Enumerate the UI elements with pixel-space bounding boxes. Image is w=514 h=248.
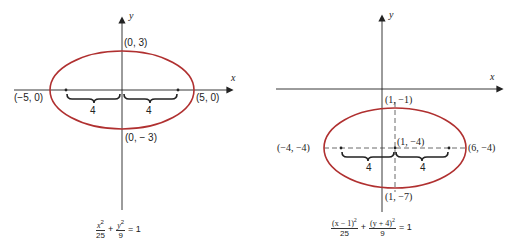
brace-label-left: 4: [90, 105, 96, 116]
left-figure: [14, 20, 230, 210]
brace-right: [124, 94, 177, 103]
point-left: (−4, −4): [277, 142, 310, 153]
equation-left: x2 25 + y2 9 = 1: [96, 218, 141, 240]
point-center: (1, −4): [397, 136, 424, 147]
point-top: (1, −1): [385, 94, 412, 105]
focus-right: [177, 89, 180, 92]
focus-right: [448, 147, 451, 150]
point-left: (−5, 0): [14, 92, 43, 103]
y-axis-label: y: [129, 10, 133, 21]
brace-left: [67, 94, 120, 103]
brace-right: [396, 152, 448, 161]
point-right: (6, −4): [468, 142, 495, 153]
focus-left: [340, 147, 343, 150]
point-top: (0, 3): [124, 37, 147, 48]
point-right: (5, 0): [196, 92, 219, 103]
brace-label-left: 4: [366, 162, 372, 173]
x-axis-label: x: [490, 71, 494, 82]
point-bottom: (1, −7): [385, 191, 412, 202]
right-figure: [276, 18, 500, 212]
point-bottom: (0, − 3): [125, 132, 157, 143]
brace-label-right: 4: [420, 162, 426, 173]
brace-label-right: 4: [146, 105, 152, 116]
diagram-canvas: [0, 0, 514, 248]
y-axis-label: y: [389, 9, 393, 20]
center: [394, 147, 397, 150]
brace-left: [342, 152, 394, 161]
equation-right: (x − 1)2 25 + (y + 4)2 9 = 1: [331, 216, 412, 238]
focus-left: [65, 89, 68, 92]
x-axis-label: x: [231, 72, 235, 83]
